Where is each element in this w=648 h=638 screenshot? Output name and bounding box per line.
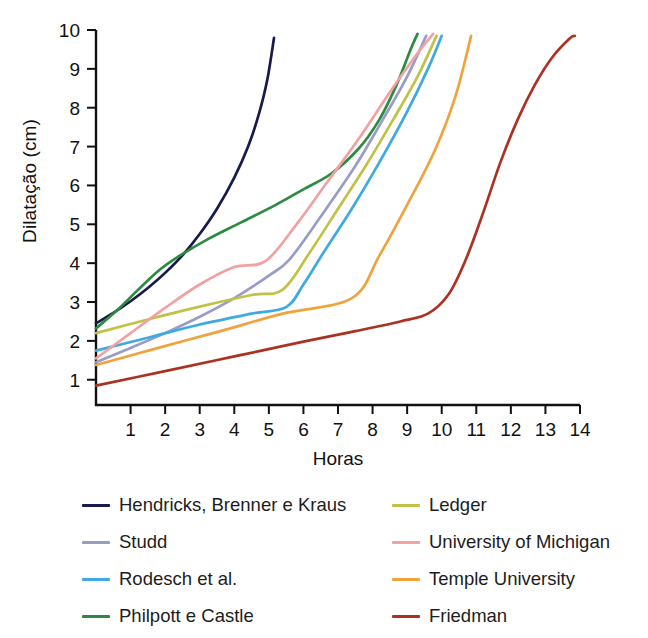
y-tick-label: 3 xyxy=(69,292,80,313)
legend-swatch-icon xyxy=(392,615,420,618)
legend-item-label: Ledger xyxy=(429,496,487,515)
x-tick-label: 2 xyxy=(160,419,171,440)
axis-layer xyxy=(87,30,580,414)
y-tick-label: 2 xyxy=(69,331,80,352)
legend-swatch-icon xyxy=(392,541,420,544)
x-tick-label: 3 xyxy=(194,419,205,440)
x-tick-label: 14 xyxy=(569,419,591,440)
chart-legend: Hendricks, Brenner e KrausLedgerStuddUni… xyxy=(0,487,648,638)
legend-swatch-icon xyxy=(392,578,420,581)
series-layer xyxy=(96,34,575,386)
x-tick-label: 9 xyxy=(402,419,413,440)
x-tick-label: 10 xyxy=(431,419,452,440)
legend-item[interactable]: Ledger xyxy=(392,496,648,515)
legend-item-label: Studd xyxy=(119,533,167,552)
legend-swatch-icon xyxy=(82,615,110,618)
legend-swatch-icon xyxy=(82,504,110,507)
x-tick-label: 6 xyxy=(298,419,309,440)
y-tick-label: 4 xyxy=(69,253,80,274)
legend-item[interactable]: Rodesch et al. xyxy=(82,570,392,589)
y-tick-label: 7 xyxy=(69,137,80,158)
x-tick-label: 7 xyxy=(333,419,344,440)
legend-item[interactable]: Friedman xyxy=(392,607,648,626)
legend-item-label: Temple University xyxy=(429,570,575,589)
y-tick-label: 9 xyxy=(69,59,80,80)
legend-swatch-icon xyxy=(82,578,110,581)
x-tick-label: 4 xyxy=(229,419,240,440)
legend-item[interactable]: Philpott e Castle xyxy=(82,607,392,626)
x-tick-label: 8 xyxy=(367,419,378,440)
legend-item-label: University of Michigan xyxy=(429,533,610,552)
legend-item-label: Hendricks, Brenner e Kraus xyxy=(119,496,346,515)
legend-item[interactable]: University of Michigan xyxy=(392,533,648,552)
legend-item[interactable]: Hendricks, Brenner e Kraus xyxy=(82,496,392,515)
x-axis-label: Horas xyxy=(96,448,580,470)
y-axis-label: Dilatação (cm) xyxy=(19,1,41,361)
plot-area: 123456789101234567891011121314 Dilatação… xyxy=(0,0,648,480)
y-tick-label: 1 xyxy=(69,370,80,391)
series-line xyxy=(96,38,274,324)
series-line xyxy=(96,34,433,358)
legend-item-label: Philpott e Castle xyxy=(119,607,254,626)
legend-item[interactable]: Studd xyxy=(82,533,392,552)
axis-lines xyxy=(96,30,580,405)
y-tick-label: 10 xyxy=(59,20,80,41)
x-tick-label: 13 xyxy=(535,419,556,440)
chart-figure: 123456789101234567891011121314 Dilatação… xyxy=(0,0,648,638)
y-tick-label: 8 xyxy=(69,98,80,119)
y-tick-label: 6 xyxy=(69,175,80,196)
x-tick-label: 11 xyxy=(466,419,486,440)
x-tick-label: 1 xyxy=(125,419,136,440)
legend-item[interactable]: Temple University xyxy=(392,570,648,589)
x-tick-label: 12 xyxy=(500,419,521,440)
y-tick-label: 5 xyxy=(69,214,80,235)
legend-item-label: Friedman xyxy=(429,607,507,626)
legend-swatch-icon xyxy=(392,504,420,507)
x-tick-label: 5 xyxy=(264,419,275,440)
chart-svg: 123456789101234567891011121314 xyxy=(0,0,648,480)
legend-item-label: Rodesch et al. xyxy=(119,570,237,589)
legend-swatch-icon xyxy=(82,541,110,544)
series-line xyxy=(96,36,442,351)
